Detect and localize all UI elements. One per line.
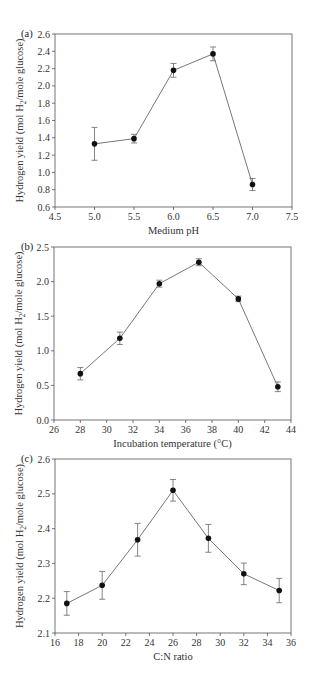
data-point-marker <box>250 182 256 188</box>
y-tick-label: 1.4 <box>38 132 51 143</box>
y-axis: 0.00.51.01.52.02.5 <box>37 242 55 426</box>
y-tick-label: 0.5 <box>37 380 50 391</box>
x-tick-label: 26 <box>168 637 178 648</box>
x-tick-label: 5.5 <box>128 211 141 222</box>
x-tick-label: 32 <box>239 637 249 648</box>
y-tick-label: 1.8 <box>38 98 51 109</box>
chart-panel-b: 0.00.51.01.52.02.526283032343638404244In… <box>13 241 296 450</box>
x-tick-label: 26 <box>49 424 59 435</box>
y-axis-title: Hydrogen yield (mol H2/mole glucose) <box>14 463 28 628</box>
x-tick-label: 7.5 <box>286 211 299 222</box>
x-tick-label: 30 <box>215 637 225 648</box>
data-point-marker <box>196 259 202 265</box>
panel-label: (c) <box>21 453 33 465</box>
x-tick-label: 30 <box>102 424 112 435</box>
y-tick-label: 2.2 <box>38 63 51 74</box>
x-axis: 1618202224262830323436 <box>50 633 296 648</box>
y-tick-label: 1.0 <box>38 167 51 178</box>
x-tick-label: 42 <box>260 424 270 435</box>
y-axis-title: Hydrogen yield (mol H2/mole glucose) <box>14 38 28 203</box>
x-tick-label: 18 <box>74 637 84 648</box>
x-tick-label: 34 <box>262 637 272 648</box>
chart-panel-c: 2.12.22.32.42.52.61618202224262830323436… <box>14 453 296 662</box>
x-tick-label: 7.0 <box>246 211 259 222</box>
panel-label: (b) <box>21 241 34 253</box>
data-point-marker <box>236 296 242 302</box>
x-tick-label: 6.0 <box>167 211 180 222</box>
plot-area-frame <box>54 247 291 420</box>
data-point-marker <box>157 281 163 287</box>
y-tick-label: 1.6 <box>38 115 51 126</box>
y-tick-label: 2.6 <box>38 29 51 40</box>
data-line <box>80 262 278 387</box>
y-axis: 0.60.81.01.21.41.61.82.02.22.42.6 <box>38 29 56 213</box>
x-tick-label: 34 <box>154 424 164 435</box>
x-tick-label: 36 <box>181 424 191 435</box>
x-tick-label: 28 <box>75 424 85 435</box>
y-tick-label: 2.0 <box>37 276 50 287</box>
y-tick-label: 1.5 <box>37 311 50 322</box>
x-tick-label: 22 <box>121 637 131 648</box>
y-axis: 2.12.22.32.42.52.6 <box>38 454 56 639</box>
data-point-marker <box>64 601 70 607</box>
data-line <box>67 490 279 603</box>
x-tick-label: 28 <box>192 637 202 648</box>
x-tick-label: 38 <box>207 424 217 435</box>
data-point-marker <box>135 537 141 543</box>
y-tick-label: 2.6 <box>38 454 51 465</box>
y-tick-label: 2.1 <box>38 628 51 639</box>
x-tick-label: 36 <box>286 637 296 648</box>
data-point-marker <box>78 371 84 377</box>
data-point-marker <box>275 384 281 390</box>
data-point-marker <box>241 571 247 577</box>
data-point-marker <box>99 583 105 589</box>
x-tick-label: 6.5 <box>207 211 220 222</box>
x-tick-label: 24 <box>144 637 154 648</box>
x-tick-label: 44 <box>286 424 296 435</box>
data-point-marker <box>170 488 176 494</box>
panel-label: (a) <box>21 28 33 40</box>
y-tick-label: 2.3 <box>38 558 51 569</box>
y-tick-label: 2.4 <box>38 46 51 57</box>
x-tick-label: 20 <box>97 637 107 648</box>
y-tick-label: 2.2 <box>38 593 51 604</box>
data-point-marker <box>206 536 212 542</box>
chart-panel-a: 0.60.81.01.21.41.61.82.02.22.42.64.55.05… <box>14 28 298 236</box>
figure-canvas: 0.60.81.01.21.41.61.82.02.22.42.64.55.05… <box>0 0 312 682</box>
x-axis-title: Incubation temperature (°C) <box>113 438 232 450</box>
data-point-marker <box>171 68 177 74</box>
x-tick-label: 32 <box>128 424 138 435</box>
data-point-marker <box>210 51 216 57</box>
data-point-marker <box>117 336 123 342</box>
x-axis: 4.55.05.56.06.57.07.5 <box>49 207 299 222</box>
x-axis: 26283032343638404244 <box>49 420 296 435</box>
x-axis-title: C:N ratio <box>153 651 192 662</box>
x-axis-title: Medium pH <box>148 225 199 236</box>
y-tick-label: 0.8 <box>38 184 51 195</box>
data-point-marker <box>276 588 282 594</box>
y-tick-label: 2.4 <box>38 523 51 534</box>
data-point-marker <box>131 136 137 142</box>
y-tick-label: 0.0 <box>37 415 50 426</box>
y-tick-label: 2.5 <box>38 488 51 499</box>
y-tick-label: 1.0 <box>37 345 50 356</box>
y-tick-label: 2.5 <box>37 242 50 253</box>
x-tick-label: 16 <box>50 637 60 648</box>
y-tick-label: 2.0 <box>38 80 51 91</box>
data-point-marker <box>92 141 98 147</box>
x-tick-label: 5.0 <box>88 211 101 222</box>
x-tick-label: 4.5 <box>49 211 62 222</box>
plot-area-frame <box>55 34 292 207</box>
y-axis-title: Hydrogen yield (mol H2/mole glucose) <box>13 251 27 416</box>
y-tick-label: 1.2 <box>38 150 51 161</box>
x-tick-label: 40 <box>233 424 243 435</box>
